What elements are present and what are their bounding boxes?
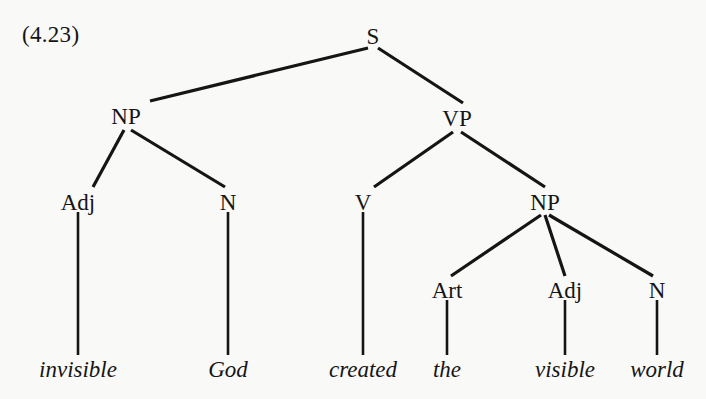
terminal-word: the <box>433 357 461 383</box>
node-np-subject: NP <box>111 104 140 130</box>
node-np-object: NP <box>530 190 559 216</box>
syntax-tree-figure: (4.23) S NP VP Adj N V NP Art Adj N invi… <box>0 0 706 399</box>
tree-edge <box>131 130 225 187</box>
tree-edge <box>93 130 124 187</box>
tree-edge <box>451 215 541 276</box>
node-v: V <box>355 190 372 216</box>
terminal-word: invisible <box>39 357 117 383</box>
node-n-object: N <box>649 278 666 304</box>
node-vp: VP <box>442 106 471 132</box>
tree-branch-lines <box>0 0 706 399</box>
node-adj-object: Adj <box>548 278 583 304</box>
tree-edge <box>374 132 453 187</box>
node-n-subject: N <box>220 190 237 216</box>
terminal-word: created <box>329 357 397 383</box>
node-adj-subject: Adj <box>61 190 96 216</box>
tree-edge <box>378 48 463 103</box>
tree-edge <box>549 215 653 276</box>
terminal-word: world <box>630 357 684 383</box>
tree-edge <box>461 132 545 187</box>
tree-edge <box>150 48 368 101</box>
node-art-object: Art <box>432 278 463 304</box>
terminal-word: visible <box>535 357 595 383</box>
node-s: S <box>367 24 380 50</box>
terminal-word: God <box>208 357 248 383</box>
